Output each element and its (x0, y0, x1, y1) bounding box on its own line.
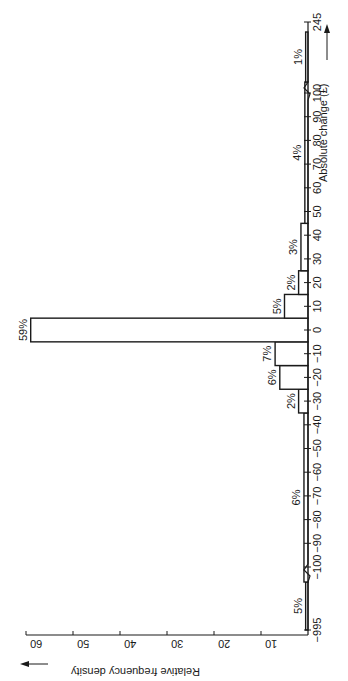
bar-percent-label: 2% (285, 274, 297, 290)
x-tick-label: −995 (311, 618, 323, 643)
bar-percent-label: 7% (261, 346, 273, 362)
histogram-bar (301, 223, 308, 270)
x-tick-label: 0 (311, 327, 323, 333)
x-tick-label: 50 (311, 205, 323, 217)
bar-percent-label: 6% (290, 489, 302, 505)
histogram-bar (280, 366, 308, 390)
x-tick-label: −100 (311, 555, 323, 580)
x-axis-arrow-icon (324, 24, 330, 60)
bar-percent-label: 5% (292, 598, 304, 614)
x-tick-label: 40 (311, 229, 323, 241)
y-axis-relative-frequency-density: 102030405060 (26, 630, 308, 650)
bar-percent-label: 6% (266, 369, 278, 385)
x-tick-label: −70 (311, 487, 323, 506)
y-axis-title: Relative frequency density (70, 666, 200, 678)
y-tick-label: 50 (77, 638, 89, 650)
histogram-bar (275, 342, 308, 366)
y-tick-label: 30 (171, 638, 183, 650)
x-tick-label: −90 (311, 534, 323, 553)
y-tick-label: 60 (30, 638, 42, 650)
y-axis-arrow-icon (20, 661, 48, 667)
bar-percent-label: 59% (17, 319, 29, 341)
x-tick-label: 20 (311, 276, 323, 288)
x-tick-label: −20 (311, 368, 323, 387)
x-tick-label: −30 (311, 392, 323, 411)
y-tick-label: 20 (218, 638, 230, 650)
x-tick-label: 60 (311, 182, 323, 194)
histogram-bar (31, 318, 308, 342)
x-axis-title: Absolute change (£) (317, 84, 329, 182)
x-tick-label: −50 (311, 439, 323, 458)
x-tick-label: 245 (311, 13, 323, 31)
x-tick-label: −40 (311, 415, 323, 434)
y-tick-label: 40 (124, 638, 136, 650)
bar-percent-label: 1% (292, 49, 304, 65)
x-tick-label: −10 (311, 344, 323, 363)
y-tick-label: 10 (265, 638, 277, 650)
histogram-bar (304, 413, 308, 582)
x-tick-label: 10 (311, 300, 323, 312)
bar-percent-label: 5% (271, 298, 283, 314)
histogram-bars (31, 32, 308, 630)
bar-percent-label: 4% (291, 145, 303, 161)
x-tick-label: −80 (311, 510, 323, 529)
x-tick-label: −60 (311, 463, 323, 482)
x-tick-label: 30 (311, 253, 323, 265)
bar-percent-label: 2% (285, 393, 297, 409)
bar-percent-label: 3% (287, 239, 299, 255)
histogram-chart: −995−100−90−80−70−60−50−40−30−20−1001020… (0, 0, 348, 681)
